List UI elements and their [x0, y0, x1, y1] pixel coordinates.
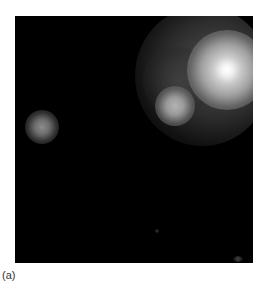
figure-caption: (a) — [2, 269, 15, 281]
faint-speck-edge — [233, 256, 243, 262]
secondary-source — [155, 86, 195, 126]
grayscale-intensity-image — [15, 16, 253, 263]
left-faint-source — [25, 110, 59, 144]
faint-speck — [155, 229, 159, 233]
